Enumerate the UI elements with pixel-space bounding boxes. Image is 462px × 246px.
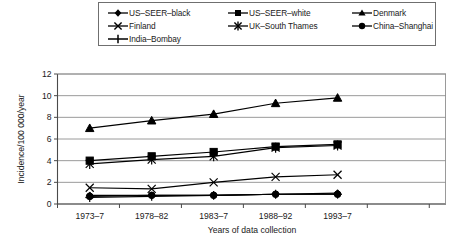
chart-canvas: Incidence/100 000/year 024681012 1973–71… (0, 0, 462, 246)
y-tick-label: 4 (47, 156, 52, 166)
x-axis-tick-labels: 1973–71978–821983–71988–921993–7 (75, 211, 352, 221)
y-tick-label: 8 (47, 112, 52, 122)
series-uk-south-thames (86, 141, 342, 169)
plus-marker-icon (271, 190, 280, 199)
x-axis-tick-marks (58, 204, 430, 208)
x-tick-label: 1993–7 (323, 211, 352, 221)
y-tick-label: 6 (47, 134, 52, 144)
triangle-marker-icon (333, 94, 341, 102)
y-axis-title: Incidence/100 000/year (16, 94, 26, 183)
plus-marker-icon (209, 191, 218, 200)
chart-series-layer (85, 94, 342, 202)
line-chart: Incidence/100 000/year 024681012 1973–71… (0, 0, 462, 246)
x-tick-label: 1973–7 (75, 211, 104, 221)
y-axis-tick-labels: 024681012 (42, 69, 52, 209)
series-denmark (86, 94, 342, 132)
plus-marker-icon (333, 190, 342, 199)
y-tick-label: 12 (42, 69, 52, 79)
y-tick-label: 0 (47, 199, 52, 209)
x-axis-title: Years of data collection (208, 225, 297, 235)
y-tick-label: 10 (42, 91, 52, 101)
series-finland (86, 171, 342, 193)
x-tick-label: 1988–92 (259, 211, 293, 221)
chart-gridlines (54, 74, 446, 204)
y-tick-label: 2 (47, 177, 52, 187)
x-tick-label: 1983–7 (199, 211, 228, 221)
x-tick-label: 1978–82 (135, 211, 169, 221)
